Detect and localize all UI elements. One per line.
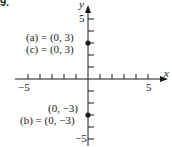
point-b-coord-label: (0, −3) (48, 103, 78, 114)
point-a-label: (a) = (0, 3) (26, 32, 74, 43)
x-tick-label-neg5: −5 (18, 82, 30, 93)
x-axis-label: x (164, 68, 169, 79)
point-c-label: (c) = (0, 3) (26, 44, 74, 55)
point-a-c (85, 40, 90, 45)
point-b-label: (b) = (0, −3) (20, 115, 75, 126)
y-tick-label-neg5: −5 (75, 133, 87, 144)
y-axis-arrow-icon (85, 5, 91, 13)
y-axis-label: y (79, 0, 84, 10)
point-b (85, 112, 90, 117)
y-tick-label-5: 5 (79, 13, 85, 24)
x-tick-label-5: 5 (146, 82, 152, 93)
